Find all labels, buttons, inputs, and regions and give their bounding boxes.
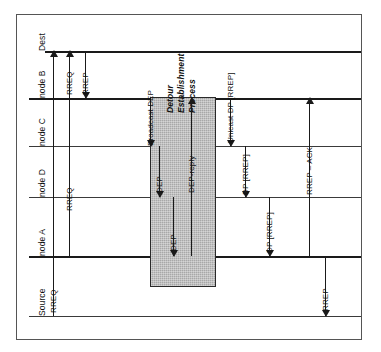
arrowhead-up-icon (50, 50, 58, 57)
lifeline-label-node-b: node B (38, 70, 47, 98)
message-label-unicast-dp-rrep: Unicast DP [RREP] (227, 73, 235, 143)
arrowhead-down-icon (322, 310, 330, 317)
arrowhead-up-icon (66, 50, 74, 57)
arrowhead-down-icon (170, 250, 178, 257)
message-label-rreq-source: RREQ (50, 289, 58, 313)
lifeline-label-source: Source (38, 288, 47, 316)
message-label-dep-nodec: DEP (156, 176, 164, 193)
message-label-dp-rrep-nodec: DP [RREP] (242, 154, 250, 195)
phase-label-line-1: Detour (166, 85, 175, 113)
message-label-rrep-source: RREP (322, 288, 330, 311)
arrowhead-up-icon (306, 97, 314, 104)
lifeline-label-node-a: node A (38, 229, 47, 256)
lifeline-dest (45, 51, 361, 53)
message-label-dp-rrep-noded: DP [RREP] (266, 212, 274, 253)
lifeline-label-node-d: node D (38, 169, 47, 197)
message-label-rreq-nodea: RREQ (66, 71, 74, 95)
diagram-frame: Dest node B node C node D node A Source … (16, 14, 362, 340)
lifeline-source (29, 316, 361, 317)
message-label-broadcast-dep: Broadcast DEP (147, 90, 155, 146)
lifeline-label-dest: Dest (38, 33, 47, 51)
arrowhead-up-icon (188, 97, 196, 104)
phase-label-line-2: Establishment (177, 54, 186, 113)
message-label-dep-reply: DEP-reply (188, 156, 196, 193)
message-label-rrep-dest: RREP (82, 72, 90, 95)
message-label-rreq-nodea-lower: RREQ (66, 187, 74, 211)
lifeline-label-node-c: node C (38, 118, 47, 146)
message-label-dep-noded: DEP (170, 234, 178, 251)
arrow-rreq-source-to-dest (53, 51, 54, 316)
message-label-rrep-ack: RREP – ACK (306, 147, 314, 195)
sequence-diagram-figure: Dest node B node C node D node A Source … (0, 0, 381, 352)
